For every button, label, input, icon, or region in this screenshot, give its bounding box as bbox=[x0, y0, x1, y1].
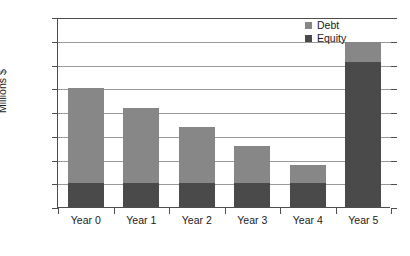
y-tick-right-500 bbox=[391, 89, 397, 90]
y-tick-400 bbox=[52, 113, 58, 114]
y-tick-100 bbox=[52, 184, 58, 185]
bar-segment-equity bbox=[345, 62, 381, 207]
y-tick-300 bbox=[52, 137, 58, 138]
y-tick-500 bbox=[52, 89, 58, 90]
legend-swatch-icon bbox=[305, 22, 312, 29]
x-tick bbox=[336, 208, 337, 214]
y-tick-right-100 bbox=[391, 184, 397, 185]
bar-segment-equity bbox=[179, 183, 215, 207]
bar-group bbox=[68, 17, 104, 207]
y-tick-800 bbox=[52, 18, 58, 19]
bar-segment-debt bbox=[68, 88, 104, 183]
x-tick-label-year-3: Year 3 bbox=[237, 214, 267, 226]
x-tick bbox=[280, 208, 281, 214]
legend-item-equity: Equity bbox=[305, 32, 346, 45]
stacked-bar-chart: Millions $ 0100200300400500600700800 Yea… bbox=[0, 0, 410, 256]
chart-legend: DebtEquity bbox=[305, 19, 346, 45]
bar-segment-equity bbox=[68, 183, 104, 207]
legend-label: Equity bbox=[317, 33, 346, 44]
bar-segment-debt bbox=[234, 146, 270, 183]
legend-swatch-icon bbox=[305, 35, 312, 42]
y-tick-right-700 bbox=[391, 42, 397, 43]
y-tick-right-300 bbox=[391, 137, 397, 138]
bar-segment-equity bbox=[123, 183, 159, 207]
x-tick bbox=[114, 208, 115, 214]
plot-area: 0100200300400500600700800 Year 0Year 1Ye… bbox=[57, 18, 390, 208]
bar-group bbox=[123, 17, 159, 207]
gridline-500 bbox=[58, 89, 391, 90]
x-tick bbox=[391, 208, 392, 214]
x-tick-label-year-1: Year 1 bbox=[126, 214, 156, 226]
bar-segment-debt bbox=[179, 127, 215, 183]
x-tick-label-year-0: Year 0 bbox=[71, 214, 101, 226]
gridline-400 bbox=[58, 113, 391, 114]
gridline-600 bbox=[58, 66, 391, 67]
y-tick-right-600 bbox=[391, 66, 397, 67]
legend-item-debt: Debt bbox=[305, 19, 346, 32]
y-tick-700 bbox=[52, 42, 58, 43]
y-tick-600 bbox=[52, 66, 58, 67]
legend-label: Debt bbox=[317, 20, 339, 31]
bar-segment-debt bbox=[123, 108, 159, 183]
y-axis-title: Millions $ bbox=[0, 69, 8, 113]
y-tick-right-200 bbox=[391, 161, 397, 162]
bar-segment-debt bbox=[290, 165, 326, 183]
bar-group bbox=[234, 17, 270, 207]
x-tick-label-year-5: Year 5 bbox=[348, 214, 378, 226]
x-tick bbox=[169, 208, 170, 214]
x-tick-label-year-4: Year 4 bbox=[293, 214, 323, 226]
x-tick bbox=[225, 208, 226, 214]
y-tick-right-400 bbox=[391, 113, 397, 114]
bar-segment-debt bbox=[345, 42, 381, 62]
bar-group bbox=[345, 17, 381, 207]
bar-segment-equity bbox=[234, 183, 270, 207]
gridline-100 bbox=[58, 184, 391, 185]
x-tick-label-year-2: Year 2 bbox=[182, 214, 212, 226]
gridline-200 bbox=[58, 161, 391, 162]
bar-group bbox=[179, 17, 215, 207]
x-tick bbox=[58, 208, 59, 214]
gridline-300 bbox=[58, 137, 391, 138]
bar-segment-equity bbox=[290, 183, 326, 207]
y-tick-200 bbox=[52, 161, 58, 162]
y-tick-right-800 bbox=[391, 18, 397, 19]
bar-group bbox=[290, 17, 326, 207]
